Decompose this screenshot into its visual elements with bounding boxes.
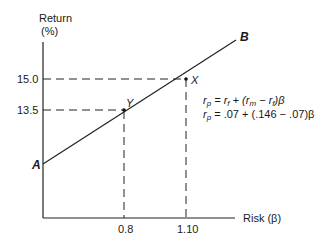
tick-x-08: 0.8 xyxy=(118,224,133,235)
tick-x-110: 1.10 xyxy=(177,224,198,235)
point-x-marker xyxy=(184,77,188,81)
equation-general: rp = rf + (rm − rf)β xyxy=(203,95,285,108)
point-x-label: X xyxy=(191,75,198,86)
y-axis-label-line1: Return xyxy=(39,13,72,24)
tick-y-15: 15.0 xyxy=(17,74,38,85)
point-a-label: A xyxy=(32,159,41,171)
equation-numeric: rp = .07 + (.146 − .07)β xyxy=(203,109,314,122)
point-y-label: Y xyxy=(126,98,133,109)
point-b-label: B xyxy=(240,31,249,43)
y-axis-label-line2: (%) xyxy=(41,26,58,37)
x-axis-label: Risk (β) xyxy=(243,213,281,224)
tick-y-135: 13.5 xyxy=(17,105,38,116)
chart-canvas xyxy=(0,0,326,247)
